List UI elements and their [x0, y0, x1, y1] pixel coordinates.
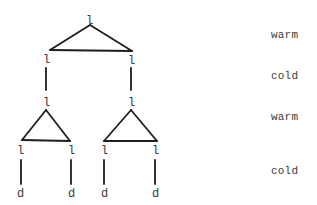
node-l1-left: l — [43, 53, 50, 67]
leaf-rl: d — [101, 187, 108, 201]
node-l2-right: l — [128, 96, 135, 110]
top-triangle — [50, 25, 132, 51]
node-l3-rl: l — [101, 144, 108, 158]
node-l2-left: l — [43, 96, 50, 110]
level-label-1: warm — [271, 29, 298, 41]
tree-diagram: l l l l l l l l l d d d d — [0, 0, 317, 205]
level-label-4: cold — [271, 165, 298, 177]
level-label-2: cold — [271, 70, 298, 82]
right-triangle — [104, 110, 157, 141]
node-l1-right: l — [128, 54, 135, 68]
level-label-3: warm — [271, 111, 298, 123]
node-l3-rr: l — [152, 144, 159, 158]
node-root: l — [86, 14, 93, 28]
leaf-lr: d — [68, 187, 75, 201]
node-l3-ll: l — [17, 144, 24, 158]
node-l3-lr: l — [68, 144, 75, 158]
leaf-rr: d — [152, 187, 159, 201]
leaf-ll: d — [17, 187, 24, 201]
left-triangle — [22, 110, 70, 141]
